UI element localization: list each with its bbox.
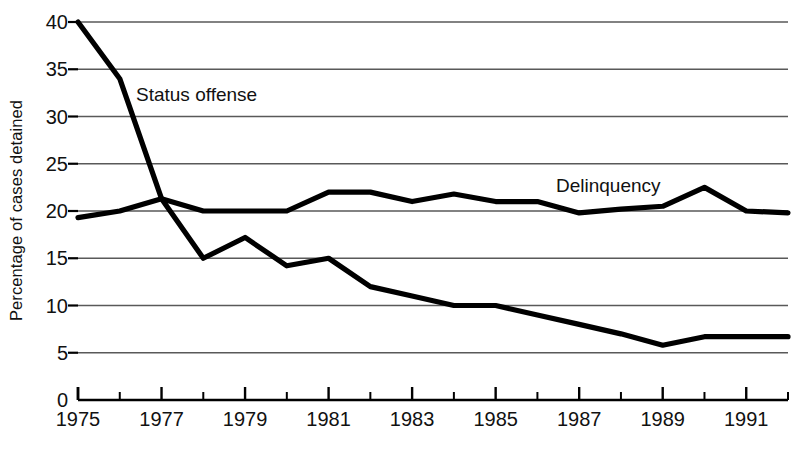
chart-container: Percentage of cases detained 05101520253… bbox=[0, 0, 809, 460]
series-label-delinquency: Delinquency bbox=[556, 175, 661, 197]
x-tick-label-1979: 1979 bbox=[223, 408, 268, 431]
x-tick-label-1983: 1983 bbox=[390, 408, 435, 431]
series-label-status-offense: Status offense bbox=[136, 84, 257, 106]
x-tick-label-1989: 1989 bbox=[640, 408, 685, 431]
x-tick-label-1991: 1991 bbox=[724, 408, 769, 431]
x-tick-label-1981: 1981 bbox=[306, 408, 351, 431]
x-tick-label-1975: 1975 bbox=[56, 408, 101, 431]
plot-area bbox=[0, 0, 809, 460]
x-tick-label-1977: 1977 bbox=[139, 408, 184, 431]
x-tick-label-1985: 1985 bbox=[473, 408, 518, 431]
series-line-delinquency bbox=[78, 187, 788, 217]
x-tick-label-1987: 1987 bbox=[557, 408, 602, 431]
series-line-status-offense bbox=[78, 22, 788, 345]
